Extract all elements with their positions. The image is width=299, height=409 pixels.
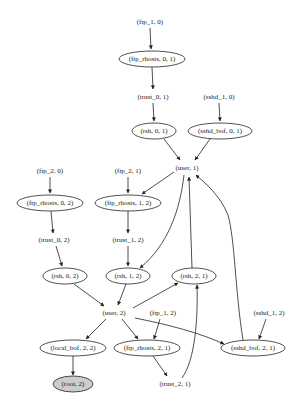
edge-trust_0_1-to-rsh_0_1 <box>153 103 154 121</box>
node-label: (ftp_1, 2) <box>150 309 177 317</box>
node-label: (ftp_rhosts, 0, 1) <box>129 55 176 63</box>
edge-sshd_1_0-to-sshd_bof_0_1 <box>219 103 220 121</box>
node-label: (rsh, 0, 2) <box>51 272 79 280</box>
node-label: (user, 1) <box>175 164 199 172</box>
node-ftp_2_1[interactable]: (ftp_2, 1) <box>115 167 142 175</box>
node-trust_2_1[interactable]: (trust_2, 1) <box>159 380 191 388</box>
node-ftp_rhosts_2_1[interactable]: (ftp_rhosts, 2, 1) <box>114 340 180 356</box>
edge-trust_0_2-to-rsh_0_2 <box>56 246 62 266</box>
edge-rsh_1_2-to-user_2 <box>118 284 126 305</box>
node-label: (sshd_1, 0) <box>203 93 235 101</box>
node-label: (trust_1, 2) <box>112 236 144 244</box>
node-ftp_rhosts_0_1[interactable]: (ftp_rhosts, 0, 1) <box>119 51 185 67</box>
node-label: (ftp_rhosts, 0, 2) <box>27 199 74 207</box>
edge-ftp_rhosts_0_2-to-trust_0_2 <box>51 211 53 233</box>
node-trust_0_1[interactable]: (trust_0, 1) <box>137 93 169 101</box>
node-ftp_1_2[interactable]: (ftp_1, 2) <box>150 309 177 317</box>
edge-user_1-to-ftp_rhosts_1_2 <box>142 172 174 194</box>
node-label: (root, 2) <box>62 380 86 388</box>
edge-user_2-to-ftp_rhosts_2_1 <box>122 319 138 339</box>
attack-graph: (ftp_1, 0)(ftp_rhosts, 0, 1)(trust_0, 1)… <box>0 0 299 409</box>
edge-sshd_1_2-to-sshd_bof_2_1 <box>259 319 266 339</box>
edge-sshd_bof_2_1-to-user_1 <box>196 175 243 340</box>
edge-rsh_0_1-to-user_1 <box>164 139 180 160</box>
node-label: (ftp_rhosts, 2, 1) <box>124 344 171 352</box>
node-label: (trust_0, 2) <box>38 236 70 244</box>
node-label: (rsh, 1, 2) <box>114 272 142 280</box>
edge-rsh_0_2-to-user_2 <box>74 284 104 306</box>
node-rsh_0_2[interactable]: (rsh, 0, 2) <box>43 268 87 284</box>
node-rsh_0_1[interactable]: (rsh, 0, 1) <box>132 123 176 139</box>
node-label: (sshd_bof, 0, 1) <box>198 127 243 135</box>
edge-user_2-to-rsh_2_1 <box>133 283 178 308</box>
node-sshd_bof_0_1[interactable]: (sshd_bof, 0, 1) <box>188 123 252 139</box>
node-rsh_1_2[interactable]: (rsh, 1, 2) <box>106 268 150 284</box>
node-root_2[interactable]: (root, 2) <box>53 376 93 392</box>
node-sshd_bof_2_1[interactable]: (sshd_bof, 2, 1) <box>221 340 285 356</box>
node-label: (ftp_rhosts, 1, 2) <box>105 199 152 207</box>
node-user_2[interactable]: (user, 2) <box>102 309 126 317</box>
edge-rsh_2_1-to-user_1 <box>189 177 192 268</box>
node-local_bof_2_2[interactable]: (local_bof, 2, 2) <box>40 340 106 356</box>
node-ftp_rhosts_0_2[interactable]: (ftp_rhosts, 0, 2) <box>17 195 83 211</box>
node-label: (rsh, 0, 1) <box>140 127 168 135</box>
node-label: (user, 2) <box>102 309 126 317</box>
edge-ftp_rhosts_2_1-to-trust_2_1 <box>153 356 167 376</box>
nodes-layer: (ftp_1, 0)(ftp_rhosts, 0, 1)(trust_0, 1)… <box>17 18 285 392</box>
node-rsh_2_1[interactable]: (rsh, 2, 1) <box>172 268 216 284</box>
node-trust_0_2[interactable]: (trust_0, 2) <box>38 236 70 244</box>
edge-ftp_rhosts_0_1-to-trust_0_1 <box>152 67 153 89</box>
node-label: (ftp_1, 0) <box>137 18 164 26</box>
node-label: (rsh, 2, 1) <box>180 272 208 280</box>
node-ftp_2_0[interactable]: (ftp_2, 0) <box>37 167 64 175</box>
edge-sshd_bof_0_1-to-user_1 <box>195 139 210 160</box>
node-ftp_rhosts_1_2[interactable]: (ftp_rhosts, 1, 2) <box>95 195 161 211</box>
node-label: (sshd_1, 2) <box>253 309 285 317</box>
node-sshd_1_0[interactable]: (sshd_1, 0) <box>203 93 235 101</box>
edge-user_2-to-local_bof_2_2 <box>86 319 106 339</box>
node-label: (ftp_2, 0) <box>37 167 64 175</box>
node-label: (sshd_bof, 2, 1) <box>231 344 276 352</box>
edge-ftp_1_0-to-ftp_rhosts_0_1 <box>150 28 151 49</box>
edge-user_1-to-rsh_1_2 <box>140 175 184 268</box>
node-trust_1_2[interactable]: (trust_1, 2) <box>112 236 144 244</box>
node-ftp_1_0[interactable]: (ftp_1, 0) <box>137 18 164 26</box>
node-label: (trust_2, 1) <box>159 380 191 388</box>
node-label: (ftp_2, 1) <box>115 167 142 175</box>
node-user_1[interactable]: (user, 1) <box>175 164 199 172</box>
node-label: (trust_0, 1) <box>137 93 169 101</box>
node-label: (local_bof, 2, 2) <box>50 344 96 352</box>
node-sshd_1_2[interactable]: (sshd_1, 2) <box>253 309 285 317</box>
